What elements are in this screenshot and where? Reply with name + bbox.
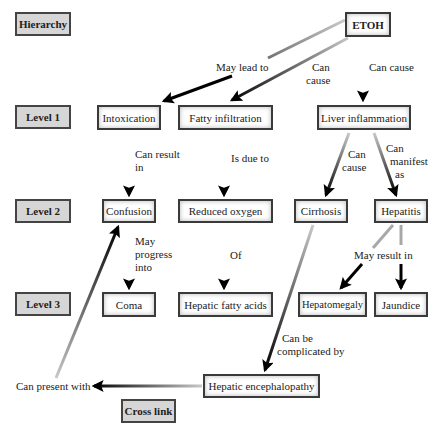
edge-label-can-present-with: Can present with [16, 380, 91, 393]
edge-label-may-progress-1: May [135, 235, 155, 248]
node-coma: Coma [102, 292, 156, 317]
legend-hierarchy: Hierarchy [15, 12, 71, 36]
node-cirrhosis: Cirrhosis [294, 199, 348, 223]
edge-label-may-progress-2: progress [135, 248, 172, 261]
edge-label-can-cause-liver: Can cause [369, 61, 414, 74]
legend-level-3: Level 3 [15, 292, 71, 316]
edge-label-can-cause-cirrhosis-2: cause [342, 161, 366, 174]
edge-label-can-cause-fatty-1: Can [312, 61, 330, 74]
edge-label-may-progress-3: into [135, 261, 152, 274]
node-etoh: ETOH [345, 12, 391, 37]
edge-label-of: Of [230, 249, 242, 262]
edge-hepatitis-hepatomegaly [373, 225, 393, 248]
edge-label-complicated-1: Can be [282, 332, 313, 345]
node-intoxication: Intoxication [97, 105, 161, 130]
node-hepatitis: Hepatitis [374, 199, 428, 223]
edge-label-can-cause-fatty-2: cause [306, 74, 330, 87]
node-fatty-infiltration: Fatty infiltration [178, 105, 273, 130]
edge-etoh-intoxication [268, 20, 345, 58]
edge-label-can-cause-cirrhosis-1: Can [348, 148, 366, 161]
edge-label-may-lead-to: May lead to [216, 61, 269, 74]
legend-level-2: Level 2 [15, 199, 71, 223]
edge-label-can-manifest-2: manifest [390, 155, 428, 168]
node-confusion: Confusion [102, 199, 156, 223]
edge-label-can-manifest-1: Can [386, 142, 404, 155]
node-hepatomegaly: Hepatomegaly [298, 292, 367, 317]
edge-label-can-result-in-1: Can result [135, 148, 180, 161]
node-reduced-oxygen: Reduced oxygen [178, 199, 273, 223]
edge-label-complicated-2: complicated by [277, 345, 345, 358]
node-liver-inflammation: Liver inflammation [317, 105, 411, 130]
edge-label-is-due-to: Is due to [231, 152, 269, 165]
edge-label-may-result-in: May result in [354, 249, 413, 262]
legend-level-1: Level 1 [15, 105, 71, 129]
edge-label-can-result-in-2: in [135, 161, 144, 174]
node-hepatic-fatty-acids: Hepatic fatty acids [178, 292, 273, 317]
edge-label-can-manifest-3: as [395, 168, 404, 181]
legend-cross-link: Cross link [121, 399, 176, 423]
node-jaundice: Jaundice [374, 292, 428, 317]
concept-map: Hierarchy Level 1 Level 2 Level 3 Cross … [0, 0, 438, 437]
node-hepatic-encephalopathy: Hepatic encephalopathy [203, 374, 320, 398]
